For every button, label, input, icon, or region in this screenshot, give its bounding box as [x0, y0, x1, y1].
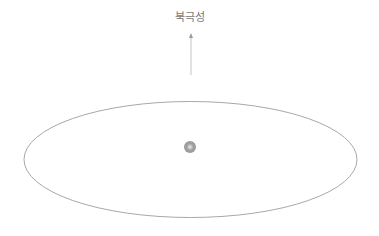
arrowhead-icon [189, 33, 193, 38]
central-body [184, 141, 196, 153]
north-arrow [189, 33, 193, 75]
orbit-ellipse [24, 102, 357, 218]
orbit-diagram [0, 0, 379, 236]
